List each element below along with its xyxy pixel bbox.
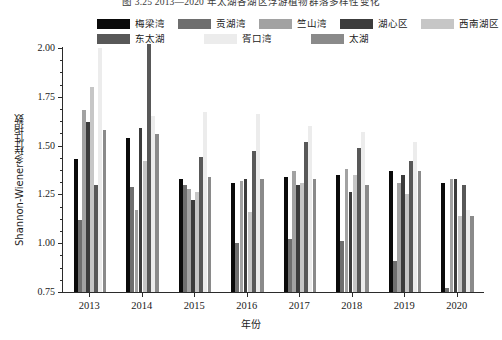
x-tick-label-2013: 2013	[79, 300, 100, 311]
x-axis-title: 年份	[0, 316, 502, 331]
x-tick-label-2018: 2018	[341, 300, 362, 311]
x-tick	[404, 292, 405, 297]
bar[interactable]	[155, 134, 159, 292]
bar[interactable]	[260, 179, 264, 292]
bar-group-2016	[231, 48, 264, 292]
bar[interactable]	[418, 171, 422, 292]
x-tick-label-2015: 2015	[184, 300, 205, 311]
y-tick-label: 0.75	[38, 287, 56, 297]
bar-group-2020	[441, 48, 474, 292]
x-tick	[247, 292, 248, 297]
bar-group-2019	[389, 48, 422, 292]
bar-group-2015	[179, 48, 212, 292]
x-axis-line	[62, 292, 484, 293]
x-tick-label-2014: 2014	[131, 300, 152, 311]
x-tick-label-2016: 2016	[236, 300, 257, 311]
x-tick	[194, 292, 195, 297]
x-tick	[89, 292, 90, 297]
y-axis-ticks: 0.751.001.251.501.752.00	[0, 0, 63, 340]
y-axis-title: Shannon-Wiener多样性指数	[12, 100, 26, 260]
bars-plot-area	[63, 48, 483, 292]
y-tick-major	[58, 292, 63, 293]
bar[interactable]	[365, 185, 369, 292]
y-tick-label: 1.00	[38, 238, 56, 248]
bar[interactable]	[441, 183, 445, 292]
bar-group-2014	[126, 48, 159, 292]
bar-group-2018	[336, 48, 369, 292]
y-tick-label: 1.75	[38, 92, 56, 102]
bar[interactable]	[313, 179, 317, 292]
bar-group-2013	[74, 48, 107, 292]
y-tick-label: 1.25	[38, 189, 56, 199]
x-tick-label-2017: 2017	[289, 300, 310, 311]
x-tick	[142, 292, 143, 297]
x-tick	[457, 292, 458, 297]
bar-group-2017	[284, 48, 317, 292]
x-tick	[299, 292, 300, 297]
x-tick-label-2020: 2020	[446, 300, 467, 311]
bar[interactable]	[208, 177, 212, 292]
bar[interactable]	[103, 130, 107, 292]
x-tick	[352, 292, 353, 297]
y-tick-label: 1.50	[38, 141, 56, 151]
chart-plot-wrapper: 0.751.001.251.501.752.00 201320142015201…	[0, 0, 502, 340]
y-tick-label: 2.00	[38, 43, 56, 53]
bar[interactable]	[470, 216, 474, 292]
x-tick-label-2019: 2019	[394, 300, 415, 311]
